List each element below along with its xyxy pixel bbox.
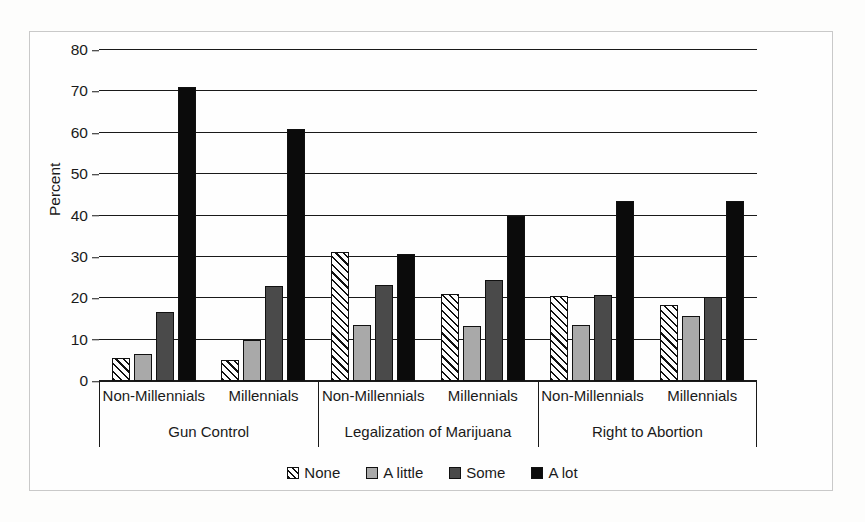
bar [331,252,349,381]
bar [112,358,130,381]
bar [441,294,459,381]
x-group-label: Right to Abortion [592,423,703,440]
bar [463,326,481,381]
x-subgroup-label: Millennials [228,387,298,404]
legend-label: Some [466,464,505,481]
bar [353,325,371,381]
bar [572,325,590,381]
bar [375,285,393,381]
y-tick-label-0: 0 [36,373,99,389]
bar [178,87,196,381]
y-tick-label-50: 50 [36,166,99,182]
y-tick-label-10: 10 [36,332,99,348]
plot-area: 01020304050607080 [99,50,757,381]
y-tick-label-70: 70 [36,84,99,100]
y-tick-label-40: 40 [36,208,99,224]
bar [660,305,678,381]
x-subgroup-label: Millennials [448,387,518,404]
legend-label: A lot [548,464,577,481]
bar [397,254,415,381]
y-tick-label-80: 80 [36,42,99,58]
bar [682,316,700,381]
bar-subgroup [538,50,648,381]
x-subgroup-label: Non-Millennials [541,387,644,404]
bar-subgroup [647,50,757,381]
y-tick-label-30: 30 [36,249,99,265]
legend-swatch-icon [287,467,299,479]
x-subgroup-label: Non-Millennials [322,387,425,404]
bar-subgroup [99,50,209,381]
bar [485,280,503,381]
figure: Percent 01020304050607080 Non-Millennial… [0,0,865,522]
x-subgroup-label: Non-Millennials [103,387,206,404]
x-group-separator [538,381,539,447]
legend-item: A lot [531,464,577,481]
x-group-label: Gun Control [168,423,249,440]
bar [287,129,305,381]
x-group-separator [318,381,319,447]
y-tick-label-60: 60 [36,125,99,141]
x-group-rule [538,381,757,382]
x-subgroup-label: Millennials [667,387,737,404]
bar-series-container [99,50,757,381]
bar [726,201,744,381]
x-group-separator [99,381,100,447]
bar [507,216,525,381]
x-group-rule [99,381,318,382]
legend-swatch-icon [531,467,543,479]
x-axis-subgroup-labels: Non-MillennialsMillennialsNon-Millennial… [99,381,757,415]
legend-label: None [304,464,340,481]
legend-item: A little [366,464,423,481]
x-group-separator [756,381,757,447]
bar [156,312,174,382]
bar [265,286,283,381]
bar [616,201,634,381]
legend-item: None [287,464,340,481]
bar-subgroup [209,50,319,381]
bar [704,297,722,381]
legend-item: Some [449,464,505,481]
bar [221,360,239,381]
x-group-label: Legalization of Marijuana [345,423,512,440]
x-group-rule [318,381,537,382]
x-axis: Non-MillennialsMillennialsNon-Millennial… [99,381,757,453]
legend-label: A little [383,464,423,481]
legend-swatch-icon [449,467,461,479]
y-tick-label-20: 20 [36,291,99,307]
legend: NoneA littleSomeA lot [0,464,865,481]
bar [550,296,568,381]
legend-swatch-icon [366,467,378,479]
bar [594,295,612,381]
x-axis-group-labels: Gun ControlLegalization of MarijuanaRigh… [99,415,757,453]
bar [243,340,261,381]
bar-subgroup [428,50,538,381]
bar-subgroup [318,50,428,381]
bar [134,354,152,381]
